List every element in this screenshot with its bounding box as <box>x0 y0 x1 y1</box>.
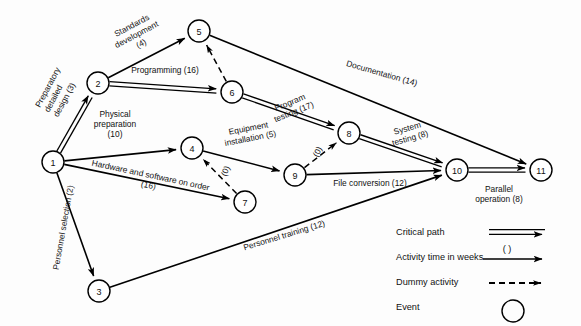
event-number-4: 4 <box>189 144 194 154</box>
legend-event-circle <box>502 300 524 322</box>
edge-5-11-label: Documentation (14) <box>345 58 419 88</box>
event-number-7: 7 <box>242 198 247 208</box>
event-number-11: 11 <box>536 166 545 176</box>
event-node-7[interactable]: 7 <box>234 191 256 213</box>
event-node-2[interactable]: 2 <box>87 72 109 94</box>
legend-critical-path-label: Critical path <box>396 227 445 237</box>
legend-activity-time: Activity time in weeks( ) <box>396 244 542 262</box>
edge-1-7-label: Hardware and software on order(16) <box>89 158 211 203</box>
edge-6-8-label: Programtesting (17) <box>269 90 316 125</box>
legend-critical-path: Critical path <box>396 227 545 237</box>
edge-2-6 <box>109 82 216 93</box>
legend-event: Event <box>396 300 524 322</box>
edge-9-10 <box>306 170 441 174</box>
edge-3-10-label: Personnel training (12) <box>242 218 326 252</box>
event-number-9: 9 <box>292 171 297 181</box>
edge-10-11 <box>469 168 526 172</box>
edge-1-3-label: Personnel selection (2) <box>51 184 76 270</box>
legend-event-label: Event <box>396 302 420 312</box>
edge-9-8-label: (0) <box>311 145 325 159</box>
legend-activity-time-label: Activity time in weeks <box>396 252 484 262</box>
edge-4-9-label: Equipmentinstallation (5) <box>222 118 277 148</box>
edge-2-6-label: Programming (16) <box>131 65 199 75</box>
event-node-5[interactable]: 5 <box>188 20 210 42</box>
edge-5-11 <box>210 35 527 164</box>
event-node-6[interactable]: 6 <box>221 81 243 103</box>
edge-1-2-label: Preparatorydetaileddesign (3) <box>33 65 81 119</box>
event-number-10: 10 <box>452 166 462 176</box>
legend-dummy-activity: Dummy activity <box>396 277 541 287</box>
event-node-3[interactable]: 3 <box>88 280 110 302</box>
event-node-1[interactable]: 1 <box>42 151 64 173</box>
edge-3-10 <box>110 175 442 287</box>
edge-2-5-label: Standardsdevelopment(4) <box>108 9 165 59</box>
legend-activity-time-parens: ( ) <box>503 244 512 254</box>
network-diagram-canvas: 1234567891011 Preparatorydetaileddesign … <box>0 0 581 326</box>
edge-1-4 <box>64 150 176 161</box>
event-node-4[interactable]: 4 <box>181 137 203 159</box>
event-node-11[interactable]: 11 <box>530 159 552 181</box>
event-number-1: 1 <box>50 158 55 168</box>
network-diagram: 1234567891011 Preparatorydetaileddesign … <box>0 0 581 326</box>
event-number-5: 5 <box>196 27 201 37</box>
event-number-8: 8 <box>346 129 351 139</box>
legend-layer: Critical pathActivity time in weeks( )Du… <box>396 227 545 322</box>
event-number-6: 6 <box>229 88 234 98</box>
event-number-3: 3 <box>96 287 101 297</box>
event-node-8[interactable]: 8 <box>338 122 360 144</box>
event-number-2: 2 <box>95 79 100 89</box>
edge-labels-layer: Preparatorydetaileddesign (3)Personnel s… <box>33 9 523 270</box>
edge-6-5 <box>207 45 227 81</box>
edge-1-4-label: Physicalpreparation(10) <box>94 109 137 139</box>
legend-dummy-activity-label: Dummy activity <box>396 277 459 287</box>
edge-7-4-label: (0) <box>219 164 232 178</box>
edge-9-10-label: File conversion (12) <box>333 178 407 188</box>
event-node-9[interactable]: 9 <box>284 164 306 186</box>
edge-10-11-label: Paralleloperation (8) <box>475 184 523 204</box>
event-node-10[interactable]: 10 <box>446 159 468 181</box>
edge-4-9 <box>203 151 279 171</box>
